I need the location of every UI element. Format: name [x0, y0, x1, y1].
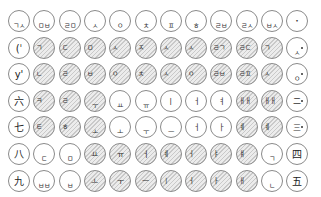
character-key[interactable]: ㅏ — [210, 116, 232, 138]
character-key[interactable]: ㅗ — [109, 116, 131, 138]
character-key[interactable]: ㅅ — [160, 37, 182, 59]
character-key[interactable]: ㅒ — [236, 143, 258, 165]
key-glyph: ㄹㅂ — [213, 70, 225, 78]
character-key[interactable]: ㅛ — [84, 143, 106, 165]
character-key[interactable]: ㅅ — [84, 10, 106, 32]
character-key[interactable]: 八 — [8, 143, 30, 165]
character-key[interactable]: ・ — [286, 10, 308, 32]
character-key[interactable]: ㅇ — [109, 63, 131, 85]
key-glyph: ㅐㅐ — [239, 97, 251, 105]
character-key[interactable]: ㅣ — [160, 90, 182, 112]
character-key[interactable]: 九 — [8, 170, 30, 192]
character-key[interactable]: ㅠ — [135, 90, 157, 112]
character-key[interactable]: (ˈ — [8, 37, 30, 59]
character-key[interactable]: ㅂ — [59, 170, 81, 192]
character-key[interactable]: ㄴ — [261, 170, 283, 192]
character-key[interactable]: ㅠ — [109, 143, 131, 165]
character-key[interactable]: ㄹ — [59, 63, 81, 85]
character-key[interactable]: ㄷ — [59, 37, 81, 59]
character-key[interactable]: ㅋ — [33, 90, 55, 112]
character-key[interactable]: ㄹㅂ — [210, 10, 232, 32]
character-key[interactable]: ㅁ — [84, 37, 106, 59]
key-glyph: ㅜ — [136, 128, 156, 136]
key-glyph: ㄹㅁ — [60, 22, 80, 30]
character-key[interactable]: ㅅ — [109, 37, 131, 59]
character-key[interactable]: ㅂㅂ — [33, 170, 55, 192]
character-key[interactable]: 四 — [286, 143, 308, 165]
character-key[interactable]: ㅡ — [160, 116, 182, 138]
character-key[interactable]: ㄱ — [33, 37, 55, 59]
key-glyph: ㄱ — [264, 44, 270, 52]
character-key[interactable]: ㅂ — [84, 63, 106, 85]
character-key[interactable]: ㅡ — [135, 170, 157, 192]
character-key[interactable]: ㅓ — [185, 170, 207, 192]
character-key[interactable]: ㅈ — [135, 37, 157, 59]
character-key[interactable]: ㄹㅂ — [210, 63, 232, 85]
character-key[interactable]: ㅅ — [261, 63, 283, 85]
character-key[interactable]: ㅇ — [185, 63, 207, 85]
character-key[interactable]: ㅣ — [160, 170, 182, 192]
character-key[interactable]: ㅛ — [109, 90, 131, 112]
key-glyph: ㄷ — [62, 44, 68, 52]
character-key[interactable]: ㄴ — [33, 63, 55, 85]
key-glyph: ㅍ — [161, 22, 181, 30]
character-key[interactable]: ㅊ — [135, 63, 157, 85]
character-key[interactable]: ㅊ — [135, 10, 157, 32]
character-key[interactable]: ㅇ — [109, 10, 131, 32]
character-key[interactable]: ㄹㄱ — [210, 37, 232, 59]
character-key[interactable]: ㅐ — [236, 170, 258, 192]
character-key[interactable]: 七 — [8, 116, 30, 138]
character-key[interactable]: ㅏ — [210, 170, 232, 192]
character-key[interactable]: ㄹ — [59, 90, 81, 112]
character-key[interactable]: ㅜ — [84, 90, 106, 112]
character-key[interactable]: ㅑ — [210, 143, 232, 165]
character-key[interactable]: ㄷ — [33, 143, 55, 165]
character-key[interactable]: ㅜ — [135, 116, 157, 138]
character-key[interactable]: ㅅ — [160, 63, 182, 85]
character-key[interactable]: ㅎ — [59, 116, 81, 138]
character-key[interactable]: ㅇ — [286, 63, 308, 85]
key-glyph: ㄱ — [36, 44, 42, 52]
character-key[interactable]: ㅅ — [185, 37, 207, 59]
character-key[interactable]: ㅗ — [84, 116, 106, 138]
key-glyph: ㅡ — [136, 178, 156, 186]
character-key[interactable]: ㅗ — [84, 170, 106, 192]
character-key[interactable]: ㄱㅅ — [8, 10, 30, 32]
key-glyph: 三 — [287, 124, 307, 132]
character-key[interactable]: 二 — [286, 90, 308, 112]
character-key[interactable]: ㅓ — [135, 143, 157, 165]
character-key[interactable]: ㅖ — [160, 143, 182, 165]
key-glyph: ㅠ — [136, 102, 156, 110]
character-key[interactable]: y' — [8, 63, 30, 85]
character-key[interactable]: ㅓ — [185, 90, 207, 112]
character-key[interactable]: 六 — [8, 90, 30, 112]
character-key[interactable]: ㅓ — [185, 116, 207, 138]
character-key[interactable]: ㅖ — [236, 116, 258, 138]
character-key[interactable]: ㅐㅐ — [261, 90, 283, 112]
character-key[interactable]: ㄹㅅ — [236, 10, 258, 32]
character-key[interactable]: 三 — [286, 116, 308, 138]
key-glyph: ㅇ — [112, 70, 118, 78]
character-key[interactable]: ㅖ — [261, 116, 283, 138]
character-key[interactable]: ㅕ — [210, 90, 232, 112]
character-key[interactable]: ㅁ — [59, 143, 81, 165]
character-key[interactable]: ㅜ — [109, 170, 131, 192]
character-key[interactable]: ㅌ — [33, 116, 55, 138]
character-key[interactable]: ㄹㅁ — [59, 10, 81, 32]
character-key[interactable]: ㅓ — [185, 143, 207, 165]
character-key[interactable]: ㅐㅐ — [236, 90, 258, 112]
character-key[interactable]: ㅂㅅ — [261, 10, 283, 32]
character-key[interactable]: ㄹㅍ — [236, 63, 258, 85]
key-glyph: ㅇ — [287, 75, 307, 83]
key-glyph: ㅜ — [110, 178, 130, 186]
key-glyph: ㅖ — [239, 123, 245, 131]
character-key[interactable]: ㄹㄷ — [236, 37, 258, 59]
character-key[interactable]: ㅁㅂ — [33, 10, 55, 32]
character-key[interactable]: ㄱ — [261, 37, 283, 59]
character-key[interactable]: ㅎ — [185, 10, 207, 32]
key-glyph: ㅅ — [188, 44, 194, 52]
character-key[interactable]: ㅍ — [160, 10, 182, 32]
character-key[interactable]: ㅅ — [286, 37, 308, 59]
character-key[interactable]: ㄱ — [261, 143, 283, 165]
character-key[interactable]: 五 — [286, 170, 308, 192]
